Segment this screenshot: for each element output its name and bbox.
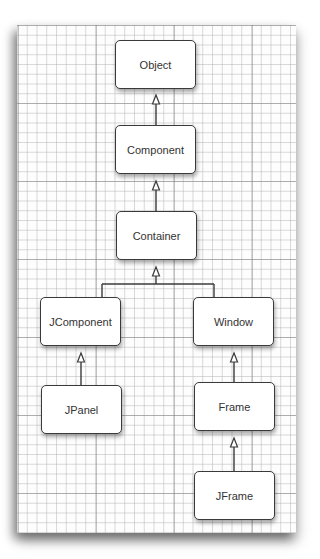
node-component: Component — [115, 125, 196, 174]
node-label: JFrame — [216, 490, 253, 502]
node-label: Object — [140, 59, 172, 71]
node-label: Container — [133, 230, 181, 242]
node-label: Window — [214, 316, 253, 328]
inheritance-arrow-icon — [78, 353, 85, 362]
node-container: Container — [116, 211, 197, 260]
node-jframe: JFrame — [194, 471, 275, 520]
node-label: Component — [127, 144, 184, 156]
inheritance-arrow-icon — [153, 95, 160, 104]
node-jcomponent: JComponent — [40, 297, 121, 346]
node-label: Frame — [219, 401, 251, 413]
inheritance-arrow-icon — [231, 438, 238, 447]
node-label: JPanel — [65, 404, 99, 416]
node-window: Window — [193, 297, 274, 346]
node-jpanel: JPanel — [41, 385, 122, 434]
node-frame: Frame — [194, 382, 275, 431]
inheritance-arrow-icon — [153, 181, 160, 190]
node-label: JComponent — [49, 316, 111, 328]
inheritance-arrow-icon — [231, 353, 238, 362]
inheritance-arrow-icon — [153, 267, 160, 276]
node-object: Object — [115, 40, 196, 89]
